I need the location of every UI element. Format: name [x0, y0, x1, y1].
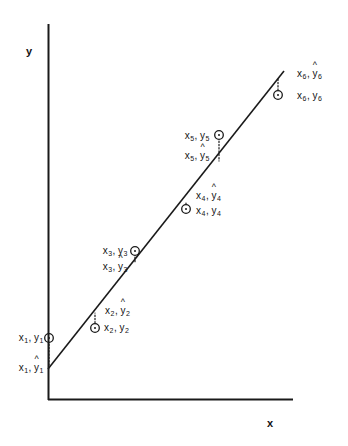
- sub-1d: 1: [39, 367, 44, 374]
- sub-3d: 3: [123, 266, 128, 273]
- label-point-5-fitted: x5, ^y5: [146, 150, 210, 162]
- sub-5d: 5: [205, 155, 210, 162]
- label-point-1-observed: x1, y1: [0, 332, 44, 344]
- sub-3a: 3: [108, 250, 113, 257]
- hat-mark-1: ^: [34, 356, 39, 362]
- label-point-3-fitted: x3, ^y3: [58, 261, 128, 273]
- label-point-4-fitted: x4, ^y4: [196, 190, 221, 202]
- sub-6d: 6: [317, 95, 322, 102]
- label-point-2-fitted: x2, ^y2: [105, 305, 130, 317]
- sub-6b: 6: [317, 73, 322, 80]
- sub-1c: 1: [24, 367, 29, 374]
- sub-4d: 4: [216, 210, 221, 217]
- sub-4b: 4: [216, 195, 221, 202]
- sub-2b: 2: [125, 310, 130, 317]
- marker-center-1: [48, 337, 50, 339]
- sub-5b: 5: [205, 135, 210, 142]
- sub-2d: 2: [124, 327, 129, 334]
- marker-center-6: [277, 94, 279, 96]
- label-point-4-observed: x4, y4: [196, 205, 221, 217]
- regression-line: [48, 71, 284, 369]
- sub-3b: 3: [123, 250, 128, 257]
- hat-mark-5: ^: [200, 144, 205, 150]
- sub-6a: 6: [302, 73, 307, 80]
- sub-5c: 5: [190, 155, 195, 162]
- sub-4c: 4: [201, 210, 206, 217]
- marker-center-3: [134, 250, 136, 252]
- label-point-2-observed: x2, y2: [104, 322, 129, 334]
- hat-mark-2: ^: [120, 299, 125, 305]
- marker-center-4: [185, 208, 187, 210]
- sub-6c: 6: [302, 95, 307, 102]
- plot-canvas: [0, 0, 348, 446]
- label-point-6-fitted: x6, ^y6: [297, 68, 322, 80]
- hat-mark-3: ^: [118, 255, 123, 261]
- sub-2a: 2: [110, 310, 115, 317]
- marker-center-5: [218, 134, 220, 136]
- label-point-5-observed: x5, y5: [146, 130, 210, 142]
- sub-2c: 2: [109, 327, 114, 334]
- sub-1a: 1: [24, 337, 29, 344]
- label-point-1-fitted: x1, ^y1: [0, 362, 44, 374]
- regression-figure: y x x1, y1 x1, ^y1 x2, ^y2 x2, y2 x3, y3…: [0, 0, 348, 446]
- y-axis-label: y: [26, 45, 32, 57]
- hat-mark-6: ^: [312, 62, 317, 68]
- sub-4a: 4: [201, 195, 206, 202]
- marker-center-2: [94, 327, 96, 329]
- observed-markers: [45, 91, 283, 343]
- sub-5a: 5: [190, 135, 195, 142]
- hat-mark-4: ^: [211, 184, 216, 190]
- sub-3c: 3: [108, 266, 113, 273]
- x-axis-label: x: [267, 417, 273, 429]
- sub-1b: 1: [39, 337, 44, 344]
- label-point-6-observed: x6, y6: [297, 90, 322, 102]
